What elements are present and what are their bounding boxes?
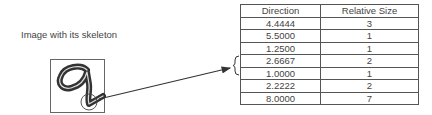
brace-icon [233,56,239,75]
direction-cell: 8.0000 [241,92,321,105]
direction-cell: 1.0000 [241,67,321,80]
table-header-row: Direction Relative Size [241,5,419,18]
table-row: 8.0000 7 [241,92,419,105]
size-cell: 7 [321,92,419,105]
header-direction: Direction [241,5,321,18]
table-row: 1.2500 1 [241,42,419,55]
size-cell: 3 [321,17,419,30]
direction-cell: 4.4444 [241,17,321,30]
size-cell: 2 [321,55,419,68]
size-cell: 1 [321,30,419,43]
table-row: 4.4444 3 [241,17,419,30]
table-row: 2.6667 2 [241,55,419,68]
size-cell: 1 [321,67,419,80]
direction-cell: 5.5000 [241,30,321,43]
table-row: 1.0000 1 [241,67,419,80]
direction-size-table: Direction Relative Size 4.4444 3 5.5000 … [240,4,419,105]
size-cell: 2 [321,80,419,93]
direction-cell: 1.2500 [241,42,321,55]
table-row: 2.2222 2 [241,80,419,93]
header-relative-size: Relative Size [321,5,419,18]
size-cell: 1 [321,42,419,55]
direction-cell: 2.2222 [241,80,321,93]
direction-cell: 2.6667 [241,55,321,68]
table-row: 5.5000 1 [241,30,419,43]
